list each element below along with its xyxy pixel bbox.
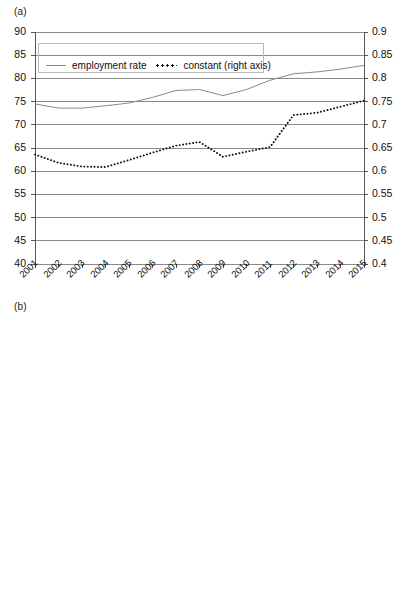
right-axis-tick-label: 0.4 [372, 257, 406, 269]
chart-panel-a: (a) 9085807570656055504540 0.90.850.80.7… [0, 0, 407, 295]
left-axis-tick-label: 70 [2, 118, 26, 130]
left-axis-tick-label: 90 [2, 25, 26, 37]
left-axis-tick-label: 45 [2, 234, 26, 246]
left-axis-tick-label: 55 [2, 187, 26, 199]
panel-a-plot-area: 9085807570656055504540 0.90.850.80.750.7… [0, 0, 407, 295]
left-axis-tick-label: 85 [2, 48, 26, 60]
left-axis-tick-label: 50 [2, 211, 26, 223]
right-axis-tick-label: 0.55 [372, 187, 406, 199]
left-axis-tick-label: 65 [2, 141, 26, 153]
right-axis-tick-label: 0.7 [372, 118, 406, 130]
right-axis-tick-label: 0.75 [372, 95, 406, 107]
right-axis-tick-label: 0.5 [372, 211, 406, 223]
left-axis-tick-label: 75 [2, 95, 26, 107]
right-axis-tick-label: 0.65 [372, 141, 406, 153]
right-axis-tick-label: 0.6 [372, 164, 406, 176]
right-axis-tick-label: 0.9 [372, 25, 406, 37]
left-axis-tick-label: 60 [2, 164, 26, 176]
left-axis-tick-label: 80 [2, 71, 26, 83]
panel-b-svg [0, 295, 407, 590]
legend-solid-swatch-icon [46, 65, 66, 66]
panel-b-plot-area: 9085807570656055504540 0.90.850.80.750.7… [0, 295, 407, 590]
right-axis-tick-label: 0.45 [372, 234, 406, 246]
chart-panel-b: (b) 9085807570656055504540 0.90.850.80.7… [0, 295, 407, 590]
right-axis-tick-label: 0.85 [372, 48, 406, 60]
right-axis-tick-label: 0.8 [372, 71, 406, 83]
legend-solid-label: employment rate [72, 60, 146, 71]
panel-a-legend: employment rate constant (right axis) [46, 60, 271, 71]
legend-dotted-label: constant (right axis) [183, 60, 270, 71]
legend-dotted-swatch-icon [155, 64, 177, 67]
